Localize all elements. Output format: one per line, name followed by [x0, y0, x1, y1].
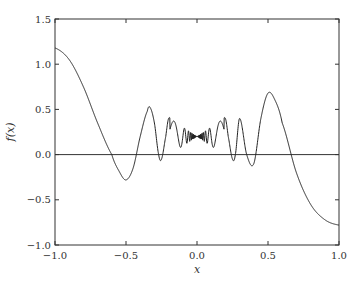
x-tick-label: −1.0 — [43, 250, 67, 261]
axes-frame — [55, 19, 339, 245]
x-tick-label: −0.5 — [114, 250, 138, 261]
plot-area: −1.0−0.50.00.51.0 −1.0−0.50.00.51.01.5 — [27, 14, 347, 262]
line-chart: −1.0−0.50.00.51.0 −1.0−0.50.00.51.01.5 x… — [0, 0, 360, 284]
y-tick-label: 0.0 — [35, 149, 51, 160]
y-tick-label: −0.5 — [27, 194, 51, 205]
function-curve — [55, 48, 339, 225]
y-tick-label: −1.0 — [27, 240, 51, 251]
y-tick-label: 1.5 — [35, 14, 51, 25]
x-tick-label: 0.5 — [260, 250, 276, 261]
x-axis-label: x — [194, 263, 201, 276]
y-axis-ticks: −1.0−0.50.00.51.01.5 — [27, 14, 339, 251]
y-axis-label: f(x) — [4, 123, 17, 143]
y-tick-label: 1.0 — [35, 59, 51, 70]
x-tick-label: 0.0 — [189, 250, 205, 261]
x-tick-label: 1.0 — [331, 250, 347, 261]
y-tick-label: 0.5 — [35, 104, 51, 115]
x-axis-ticks: −1.0−0.50.00.51.0 — [43, 19, 347, 261]
